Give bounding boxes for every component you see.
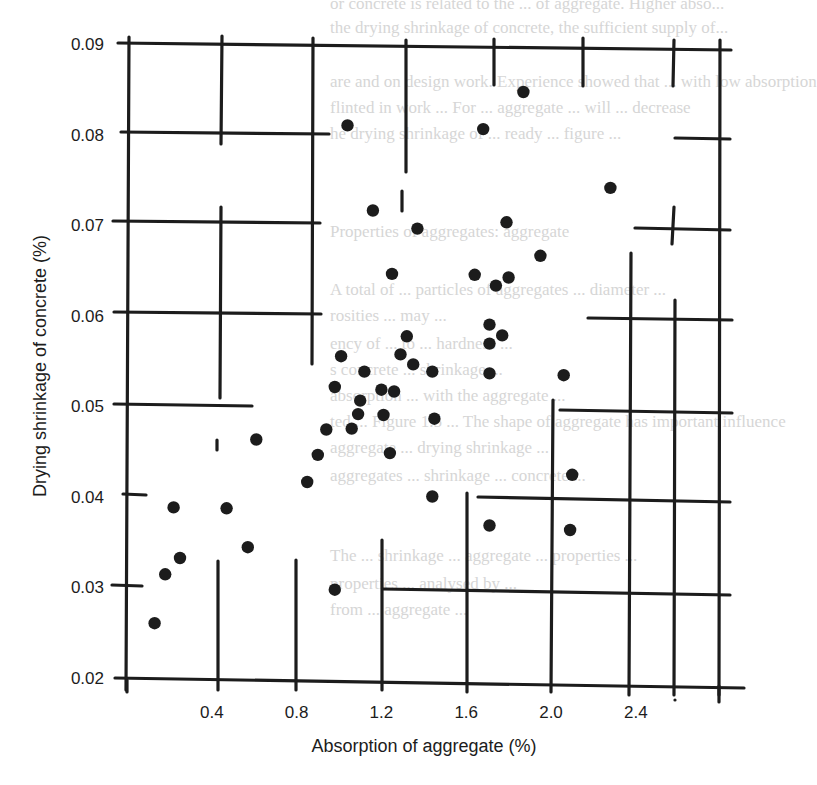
y-tick-label: 0.08 [71, 126, 104, 145]
x-tick-labels: 0.40.81.21.62.02.4 [200, 703, 648, 722]
x-tick-label: 2.4 [624, 703, 648, 722]
x-tick-label: 1.6 [454, 703, 478, 722]
data-point [388, 385, 400, 397]
data-point [604, 182, 616, 194]
data-point [566, 469, 578, 481]
data-point [534, 250, 546, 262]
x-tick-label: 0.8 [285, 703, 309, 722]
data-point [502, 271, 514, 283]
data-point [301, 476, 313, 488]
data-point [367, 204, 379, 216]
data-point [242, 541, 254, 553]
data-point [558, 369, 570, 381]
y-tick-label: 0.06 [71, 307, 104, 326]
data-point [401, 330, 413, 342]
y-tick-label: 0.09 [71, 35, 104, 54]
y-tick-label: 0.02 [71, 669, 104, 688]
data-point [500, 216, 512, 228]
data-point [477, 123, 489, 135]
data-point [354, 394, 366, 406]
x-tick-label: 2.0 [539, 703, 563, 722]
data-point [341, 119, 353, 131]
data-point [407, 358, 419, 370]
data-point [329, 584, 341, 596]
data-point [167, 501, 179, 513]
data-point [346, 422, 358, 434]
data-point [358, 365, 370, 377]
y-tick-label: 0.04 [71, 488, 104, 507]
data-point [377, 409, 389, 421]
data-point [483, 318, 495, 330]
data-point [517, 86, 529, 98]
data-point [384, 447, 396, 459]
data-point [394, 348, 406, 360]
data-point [496, 329, 508, 341]
y-tick-label: 0.07 [71, 216, 104, 235]
y-tick-label: 0.03 [71, 578, 104, 597]
data-point [483, 367, 495, 379]
data-point [564, 524, 576, 536]
data-point [329, 381, 341, 393]
data-point [174, 552, 186, 564]
data-point [411, 222, 423, 234]
data-point [386, 268, 398, 280]
data-point [352, 408, 364, 420]
x-axis-title: Absorption of aggregate (%) [311, 736, 536, 756]
y-tick-labels: 0.020.030.040.050.060.070.080.09 [71, 35, 104, 688]
data-point [335, 350, 347, 362]
data-point [148, 617, 160, 629]
x-tick-label: 0.4 [200, 703, 224, 722]
data-point [483, 519, 495, 531]
data-point [490, 279, 502, 291]
data-point [483, 337, 495, 349]
data-point [159, 568, 171, 580]
data-point [250, 433, 262, 445]
data-point [220, 502, 232, 514]
x-tick-label: 1.2 [370, 703, 394, 722]
y-axis-title: Drying shrinkage of concrete (%) [30, 235, 50, 497]
y-tick-label: 0.05 [71, 397, 104, 416]
data-point [375, 384, 387, 396]
data-point [469, 269, 481, 281]
data-point [428, 413, 440, 425]
data-point [320, 423, 332, 435]
data-point [426, 365, 438, 377]
data-point [426, 490, 438, 502]
data-point [312, 449, 324, 461]
